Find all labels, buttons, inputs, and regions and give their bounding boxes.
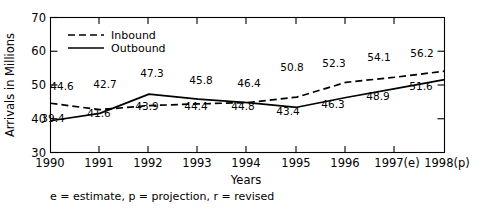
x-axis-title: Years [230, 173, 261, 187]
x-tick-label: 1996 [330, 156, 359, 170]
y-tick-label: 70 [31, 11, 46, 25]
y-axis-title: Arrivals in Millions [3, 33, 17, 137]
x-tick-label: 1994 [231, 156, 260, 170]
legend-label-inbound: Inbound [111, 29, 156, 42]
point-value-label: 46.4 [237, 77, 261, 89]
point-value-label: 43.4 [276, 105, 300, 117]
point-value-label: 39.4 [41, 112, 65, 124]
legend: Inbound Outbound [68, 29, 166, 55]
point-value-label: 41.6 [87, 107, 111, 119]
x-tick-label: 1995 [281, 156, 310, 170]
x-tick-label: 1997(e) [374, 156, 419, 170]
x-tick-label: 1993 [182, 156, 211, 170]
y-tick-label: 60 [31, 44, 46, 58]
point-value-label: 45.8 [189, 74, 212, 86]
point-value-label: 44.4 [184, 100, 208, 112]
x-tick-label: 1992 [133, 156, 162, 170]
point-value-label: 44.8 [231, 100, 254, 112]
y-tick-label: 50 [31, 78, 46, 92]
point-value-label: 56.2 [410, 47, 433, 59]
legend-label-outbound: Outbound [111, 42, 166, 55]
point-value-label: 42.7 [93, 78, 116, 90]
point-value-label: 54.1 [367, 51, 390, 63]
point-value-label: 51.6 [409, 80, 433, 92]
x-tick-label: 1990 [35, 156, 64, 170]
point-value-label: 47.3 [140, 67, 163, 79]
point-value-label: 52.3 [322, 57, 345, 69]
point-value-label: 46.3 [321, 98, 344, 110]
line-chart: 70 60 50 40 30 Arrivals in Millions [0, 0, 482, 208]
point-value-label: 48.9 [366, 90, 389, 102]
x-tick-labels: 1990 1991 1992 1993 1994 1995 1996 1997(… [35, 156, 469, 170]
x-tick-label: 1998(p) [424, 156, 470, 170]
x-tick-label: 1991 [84, 156, 113, 170]
footnote: e = estimate, p = projection, r = revise… [50, 190, 274, 203]
y-tick-labels: 70 60 50 40 30 [31, 11, 46, 160]
point-value-label: 43.9 [135, 100, 158, 112]
point-value-labels: 44.642.747.345.846.450.852.354.156.239.4… [41, 47, 433, 124]
point-value-label: 44.6 [50, 80, 74, 92]
point-value-label: 50.8 [280, 61, 303, 73]
